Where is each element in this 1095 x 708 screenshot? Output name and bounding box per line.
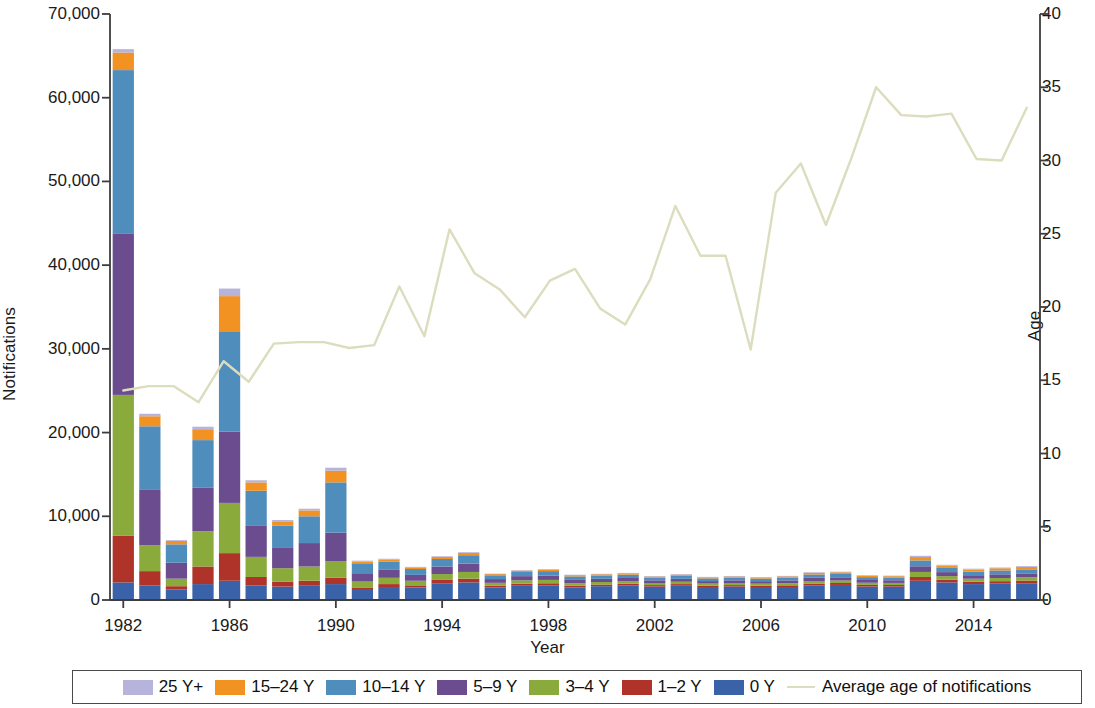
legend-item[interactable]: 25 Y+: [123, 677, 204, 697]
bar-segment: [325, 471, 346, 483]
bar-segment: [671, 579, 692, 582]
bar-segment: [857, 580, 878, 583]
bar-segment: [910, 566, 931, 572]
bar-segment: [936, 580, 957, 583]
bar-segment: [166, 540, 187, 541]
bar-segment: [352, 587, 373, 590]
bar-segment: [538, 576, 559, 580]
bar-segment: [378, 559, 399, 561]
bar-segment: [166, 586, 187, 589]
bar-segment: [299, 510, 320, 516]
bar-segment: [166, 563, 187, 579]
bar-segment: [671, 575, 692, 576]
bar-segment: [963, 569, 984, 570]
bar-segment: [697, 578, 718, 581]
bar-segment: [883, 583, 904, 585]
legend-item[interactable]: 0 Y: [714, 677, 775, 697]
bar-segment: [564, 580, 585, 583]
bar-segment: [458, 564, 479, 572]
bar-segment: [432, 583, 453, 600]
legend-item[interactable]: 10–14 Y: [326, 677, 425, 697]
legend-item[interactable]: 5–9 Y: [437, 677, 517, 697]
bar-segment: [432, 559, 453, 567]
bar-segment: [564, 576, 585, 580]
bar-segment: [405, 567, 426, 568]
bar-segment: [804, 581, 825, 584]
bar-segment: [671, 576, 692, 579]
bar-segment: [246, 557, 267, 577]
bar-segment: [325, 468, 346, 471]
average-age-line: [123, 87, 1026, 402]
bar-segment: [804, 572, 825, 573]
bar-segment: [219, 296, 240, 331]
bar-segment: [697, 587, 718, 600]
bar-segment: [113, 53, 134, 71]
bar-segment: [405, 581, 426, 586]
legend-item[interactable]: Average age of notifications: [787, 677, 1032, 697]
bar-segment: [272, 521, 293, 525]
bar-segment: [538, 580, 559, 583]
bar-segment: [564, 583, 585, 586]
bar-segment: [139, 585, 160, 600]
bar-segment: [1016, 566, 1037, 567]
bar-segment: [511, 571, 532, 572]
bar-segment: [724, 585, 745, 587]
bar-segment: [697, 577, 718, 578]
bar-segment: [804, 573, 825, 575]
bar-segment: [139, 545, 160, 571]
bar-segment: [644, 585, 665, 587]
bar-segment: [591, 574, 612, 575]
bar-segment: [219, 503, 240, 553]
bar-segment: [192, 531, 213, 566]
bar-segment: [272, 520, 293, 521]
axis-lines: [102, 14, 1048, 608]
bar-segment: [618, 575, 639, 578]
bar-segment: [671, 584, 692, 586]
bar-segment: [990, 568, 1011, 569]
bar-segment: [618, 573, 639, 574]
legend-item[interactable]: 3–4 Y: [529, 677, 609, 697]
bar-segment: [1016, 577, 1037, 580]
bar-segment: [724, 587, 745, 600]
bar-segment: [777, 587, 798, 600]
bar-segment: [378, 561, 399, 569]
bar-segment: [910, 577, 931, 581]
bar-segment: [325, 578, 346, 584]
bar-segment: [671, 586, 692, 600]
bar-segment: [485, 587, 506, 600]
bar-segment: [219, 331, 240, 431]
bar-segment: [113, 536, 134, 583]
bar-segment: [1016, 569, 1037, 573]
bar-segment: [352, 573, 373, 581]
bar-segment: [857, 583, 878, 585]
legend-item[interactable]: 1–2 Y: [622, 677, 702, 697]
bar-segment: [458, 552, 479, 553]
bar-segment: [804, 574, 825, 577]
bar-segment: [990, 570, 1011, 574]
bar-segment: [511, 576, 532, 580]
bar-segment: [963, 569, 984, 571]
legend-swatch-icon: [437, 680, 467, 695]
bar-segment: [139, 490, 160, 545]
bar-segment: [618, 585, 639, 600]
bar-segment: [910, 560, 931, 566]
bar-segment: [192, 427, 213, 430]
bar-segment: [511, 572, 532, 576]
bar-segment: [724, 576, 745, 577]
bar-segment: [936, 566, 957, 568]
bar-segment: [644, 576, 665, 577]
stacked-bars: [113, 49, 1038, 600]
bar-segment: [113, 70, 134, 233]
bar-segment: [432, 557, 453, 559]
bar-segment: [697, 584, 718, 586]
bar-segment: [750, 587, 771, 600]
bar-segment: [1016, 583, 1037, 600]
bar-segment: [378, 578, 399, 584]
bar-segment: [352, 561, 373, 564]
bar-segment: [990, 574, 1011, 578]
bar-segment: [1016, 567, 1037, 569]
bar-segment: [166, 579, 187, 587]
legend-item[interactable]: 15–24 Y: [215, 677, 314, 697]
bar-segment: [830, 585, 851, 600]
bar-segment: [883, 577, 904, 580]
